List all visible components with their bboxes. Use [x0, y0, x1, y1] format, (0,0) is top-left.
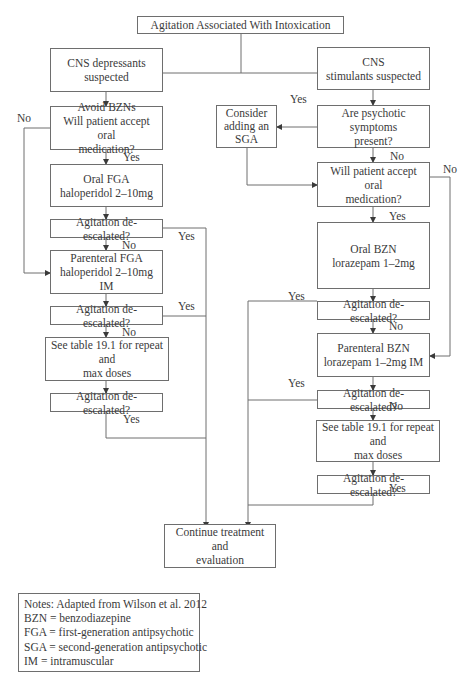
parenteral-bzn-box: Parenteral BZN lorazepam 1–2mg IM — [317, 333, 430, 377]
parenteral-fga-box: Parenteral FGA haloperidol 2–10mg IM — [50, 250, 163, 294]
oral-fga-box: Oral FGA haloperidol 2–10mg — [50, 164, 163, 207]
notes-bzn-definition: BZN = benzodiazepine — [24, 611, 194, 625]
continue-treatment-text: Continue treatment and evaluation — [169, 525, 271, 567]
right-check-3-box: Agitation de-escalated? — [317, 475, 430, 494]
notes-source: Notes: Adapted from Wilson et al. 2012 — [24, 597, 194, 611]
notes-im-definition: IM = intramuscular — [24, 654, 194, 668]
right-check-1-text: Agitation de-escalated? — [322, 297, 425, 325]
notes-legend-box: Notes: Adapted from Wilson et al. 2012 B… — [18, 593, 200, 672]
label-no-left-check2: No — [122, 326, 136, 339]
label-no-psych: No — [390, 150, 404, 163]
left-table-ref-text: See table 19.1 for repeat and max doses — [50, 338, 164, 380]
cns-depressants-text: CNS depressants suspected — [67, 56, 145, 84]
title-text: Agitation Associated With Intoxication — [151, 18, 331, 32]
consider-sga-text: Consider adding an SGA — [224, 107, 269, 146]
right-oral-question-box: Will patient accept oral medication? — [317, 162, 430, 207]
label-no-right-check2: No — [389, 400, 403, 413]
label-yes-psych: Yes — [290, 93, 307, 106]
left-check-1-box: Agitation de-escalated? — [50, 219, 163, 238]
label-yes-right-check3: Yes — [389, 482, 406, 495]
right-table-ref-box: See table 19.1 for repeat and max doses — [316, 420, 440, 462]
avoid-bzn-oral-question-box: Avoid BZNs Will patient accept oral medi… — [50, 106, 163, 150]
left-check-2-text: Agitation de-escalated? — [55, 302, 158, 330]
consider-sga-box: Consider adding an SGA — [216, 105, 277, 148]
label-yes-right-check1: Yes — [288, 290, 305, 303]
notes-sga-definition: SGA = second-generation antipsychotic — [24, 640, 194, 654]
cns-depressants-box: CNS depressants suspected — [50, 48, 163, 92]
left-check-2-box: Agitation de-escalated? — [50, 306, 163, 325]
label-yes-right-oral: Yes — [389, 210, 406, 223]
oral-bzn-box: Oral BZN lorazepam 1–2mg — [317, 222, 430, 289]
cns-stimulants-text: CNS stimulants suspected — [326, 55, 421, 83]
avoid-bzn-oral-question-text: Avoid BZNs Will patient accept oral medi… — [55, 100, 158, 156]
left-check-3-text: Agitation de-escalated? — [55, 389, 158, 417]
oral-bzn-text: Oral BZN lorazepam 1–2mg — [332, 242, 415, 270]
right-check-2-box: Agitation de-escalated? — [317, 390, 430, 409]
right-check-3-text: Agitation de-escalated? — [322, 471, 425, 499]
oral-fga-text: Oral FGA haloperidol 2–10mg — [60, 172, 153, 200]
left-check-1-text: Agitation de-escalated? — [55, 215, 158, 243]
psychotic-symptoms-question-text: Are psychotic symptoms present? — [322, 106, 425, 148]
label-no-right-check1: No — [389, 320, 403, 333]
label-no-right-oral: No — [443, 163, 457, 176]
left-table-ref-box: See table 19.1 for repeat and max doses — [45, 337, 169, 381]
label-yes-left-check3: Yes — [123, 413, 140, 426]
psychotic-symptoms-question-box: Are psychotic symptoms present? — [317, 105, 430, 148]
right-oral-question-text: Will patient accept oral medication? — [322, 164, 425, 206]
label-no-left-oral: No — [17, 112, 31, 125]
cns-stimulants-box: CNS stimulants suspected — [317, 47, 430, 90]
label-yes-left-check1: Yes — [178, 230, 195, 243]
notes-fga-definition: FGA = first-generation antipsychotic — [24, 625, 194, 639]
label-yes-left-check2: Yes — [178, 300, 195, 313]
parenteral-fga-text: Parenteral FGA haloperidol 2–10mg IM — [55, 251, 158, 293]
left-check-3-box: Agitation de-escalated? — [50, 393, 163, 412]
right-check-2-text: Agitation de-escalated? — [322, 386, 425, 414]
label-no-left-check1: No — [122, 239, 136, 252]
continue-treatment-box: Continue treatment and evaluation — [164, 524, 276, 568]
title-box: Agitation Associated With Intoxication — [137, 16, 344, 34]
label-yes-left-oral: Yes — [123, 151, 140, 164]
label-yes-right-check2: Yes — [288, 377, 305, 390]
right-check-1-box: Agitation de-escalated? — [317, 301, 430, 320]
right-table-ref-text: See table 19.1 for repeat and max doses — [321, 420, 435, 462]
parenteral-bzn-text: Parenteral BZN lorazepam 1–2mg IM — [324, 341, 424, 369]
